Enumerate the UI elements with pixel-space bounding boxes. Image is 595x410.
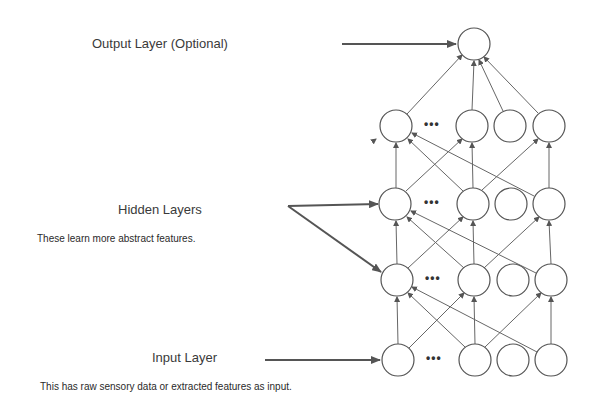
input-node-1 [382,344,414,376]
ellipsis-input: ••• [426,351,442,365]
ellipsis-hidden-1: ••• [425,271,441,285]
output-node [458,28,490,60]
hidden-pointer-arrow-upper [288,204,378,206]
hidden-1-node-2 [458,264,490,296]
hidden-3-node-3 [494,110,526,142]
input-node-4 [535,344,567,376]
hidden-3-node-4 [533,110,565,142]
hidden-2-node-1 [379,188,411,220]
hidden-1-node-3 [497,264,529,296]
hidden-2-node-2 [457,188,489,220]
hidden-3-node-1 [380,110,412,142]
hidden-2-node-3 [495,188,527,220]
hidden-1-node-4 [535,264,567,296]
hidden-pointer-arrow-lower [288,206,381,272]
hidden-2-node-4 [533,188,565,220]
neural-network-diagram [0,0,595,410]
ellipsis-hidden-2: ••• [424,195,440,209]
hidden-1-node-1 [381,264,413,296]
input-node-2 [459,344,491,376]
hidden-3-node-2 [456,110,488,142]
input-node-3 [497,344,529,376]
ellipsis-hidden-3: ••• [424,117,440,131]
